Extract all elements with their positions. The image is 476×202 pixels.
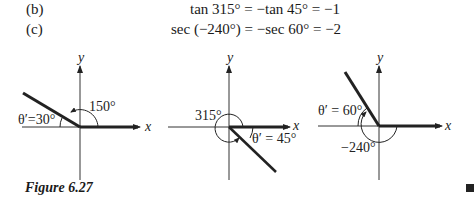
angle-label: −240°: [341, 140, 376, 155]
x-axis-label: x: [444, 118, 452, 133]
y-axis-label: y: [375, 50, 384, 65]
figure-315-degrees: 315° θ′ = 45° x y: [168, 50, 300, 180]
angle-label: 315°: [195, 108, 222, 123]
reference-angle-label: θ′ = 60°: [318, 103, 362, 118]
figure-diagrams: 150° θ′=30° x y 315° θ′ = 45° x y θ′ = 6…: [0, 0, 476, 202]
y-axis-label: y: [225, 50, 234, 65]
x-axis-label: x: [292, 118, 300, 133]
reference-angle-label: θ′=30°: [18, 112, 55, 127]
angle-label: 150°: [89, 99, 116, 114]
figure-150-degrees: 150° θ′=30° x y: [18, 50, 152, 180]
reference-angle-label: θ′ = 45°: [252, 131, 296, 146]
x-axis-label: x: [144, 119, 152, 134]
figure-negative-240-degrees: θ′ = 60° −240° x y: [318, 50, 452, 180]
figure-caption: Figure 6.27: [25, 180, 93, 196]
y-axis-label: y: [76, 50, 85, 65]
end-of-proof-icon: [466, 184, 474, 192]
